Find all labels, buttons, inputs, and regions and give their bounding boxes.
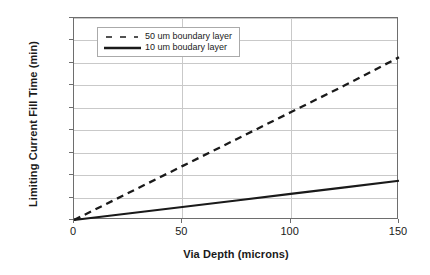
- y-axis-label: Limiting Current Fill Time (min): [27, 19, 39, 229]
- x-tick-label: 50: [151, 226, 211, 237]
- legend-item: 10 um boudary layer: [103, 42, 232, 53]
- x-tick-label: 0: [43, 226, 103, 237]
- data-series-line-2: [74, 181, 399, 220]
- legend-swatch-dashed: [103, 32, 141, 42]
- x-tick-label: 100: [260, 226, 320, 237]
- x-axis-label: Via Depth (microns): [73, 248, 399, 260]
- chart-figure: Limiting Current Fill Time (min) Via Dep…: [0, 0, 430, 275]
- plot-area: 50 um boundary layer 10 um boudary layer: [73, 17, 398, 219]
- legend-item: 50 um boundary layer: [103, 31, 232, 42]
- chart-legend: 50 um boundary layer 10 um boudary layer: [97, 27, 240, 57]
- legend-label-series-2: 10 um boudary layer: [145, 42, 227, 53]
- data-series-line-1: [74, 57, 399, 220]
- x-tick-label: 150: [368, 226, 428, 237]
- legend-swatch-solid: [103, 43, 141, 53]
- legend-label-series-1: 50 um boundary layer: [145, 31, 232, 42]
